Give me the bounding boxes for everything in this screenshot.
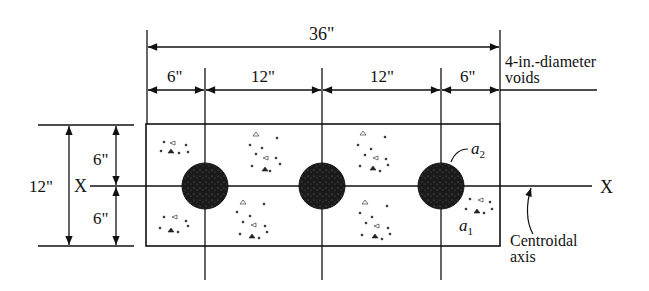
a2-base: a xyxy=(471,139,480,158)
centroidal-leader xyxy=(527,188,533,234)
dim-segment-1: 6" xyxy=(167,68,182,85)
voids-label-line1: 4-in.-diameter xyxy=(505,54,596,70)
voids xyxy=(182,163,464,209)
a2-sub: 2 xyxy=(480,148,486,160)
a1-base: a xyxy=(459,216,468,235)
dim-segment-2: 12" xyxy=(251,68,275,85)
voids-label-line2: voids xyxy=(505,70,540,86)
dim-segment-4: 6" xyxy=(460,68,475,85)
dim-half-height-top: 6" xyxy=(93,151,108,168)
void-right xyxy=(418,163,464,209)
centroidal-label-line2: axis xyxy=(510,249,536,265)
a2-label: a2 xyxy=(471,140,485,160)
axis-label-right: X xyxy=(600,178,613,196)
centroidal-label-line1: Centroidal xyxy=(510,233,578,249)
dim-half-height-bottom: 6" xyxy=(93,210,108,227)
dim-segment-3: 12" xyxy=(370,68,394,85)
dim-overall-width: 36" xyxy=(309,25,334,43)
a1-label: a1 xyxy=(459,217,473,237)
void-center xyxy=(299,163,345,209)
a1-sub: 1 xyxy=(468,225,474,237)
extension-lines xyxy=(147,30,500,280)
a2-leader xyxy=(451,149,468,162)
dim-overall-height: 12" xyxy=(29,178,53,195)
axis-label-left: X xyxy=(74,177,87,195)
void-left xyxy=(182,163,228,209)
